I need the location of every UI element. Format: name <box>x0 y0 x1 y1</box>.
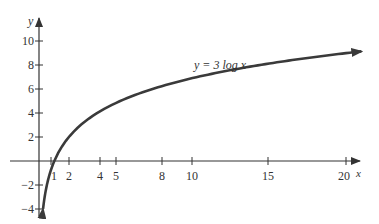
y-tick-label: −4 <box>21 202 34 216</box>
y-tick-label: 2 <box>28 130 34 144</box>
x-tick-label: 2 <box>66 169 72 183</box>
x-tick-label: 15 <box>262 169 274 183</box>
y-tick-label: −2 <box>21 178 34 192</box>
y-axis-label: y <box>27 14 34 28</box>
x-tick-label: 4 <box>97 169 103 183</box>
curve-label: y = 3 log x <box>193 58 247 72</box>
x-tick-labels: 1 2 4 5 8 10 15 20 <box>51 169 350 183</box>
x-axis-label: x <box>355 167 361 179</box>
x-tick-label: 20 <box>338 169 350 183</box>
x-tick-label: 8 <box>159 169 165 183</box>
y-tick-label: 6 <box>28 82 34 96</box>
x-tick-label: 5 <box>113 169 119 183</box>
y-tick-label: 10 <box>22 34 34 48</box>
y-tick-label: 4 <box>28 106 34 120</box>
y-tick-label: 8 <box>28 58 34 72</box>
x-tick-label: 10 <box>186 169 198 183</box>
log-curve <box>43 51 361 209</box>
chart: y x 1 2 4 5 8 10 15 20 10 8 6 4 2 −2 <box>0 0 379 224</box>
y-tick-labels: 10 8 6 4 2 −2 −4 <box>21 34 34 216</box>
